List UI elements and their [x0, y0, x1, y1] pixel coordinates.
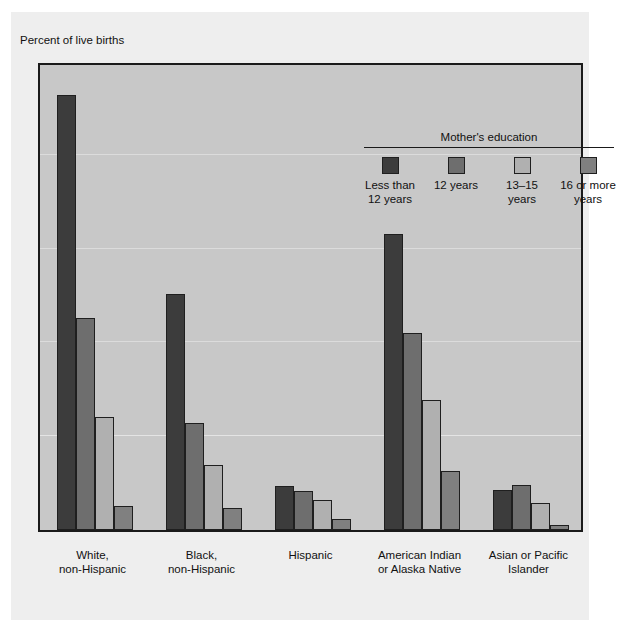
legend-divider: [364, 147, 614, 148]
bar: [294, 491, 313, 530]
x-axis-group-label: Hispanic: [251, 548, 371, 562]
bar: [223, 508, 242, 531]
y-axis-caption: Percent of live births: [20, 34, 124, 46]
bar: [204, 465, 223, 530]
legend-item: 16 or more years: [558, 157, 618, 207]
bar: [185, 423, 204, 530]
x-axis-group-label: Asian or Pacific Islander: [469, 548, 589, 577]
legend-swatch-icon: [580, 157, 597, 174]
bar: [493, 490, 512, 530]
bar: [403, 333, 422, 530]
legend-item: Less than 12 years: [360, 157, 420, 207]
legend-swatch-icon: [514, 157, 531, 174]
legend-item-label: 13–15 years: [492, 179, 552, 207]
bar: [114, 506, 133, 530]
x-axis-group-label: Black, non-Hispanic: [142, 548, 262, 577]
bar: [384, 234, 403, 530]
gridline-10: [40, 435, 581, 436]
bar: [441, 471, 460, 530]
bar: [76, 318, 95, 530]
legend-item-label: 12 years: [426, 179, 486, 193]
legend-title: Mother's education: [360, 131, 618, 143]
bar: [166, 294, 185, 530]
x-axis-group-label: American Indian or Alaska Native: [360, 548, 480, 577]
bar: [57, 95, 76, 530]
plot-frame: Mother's education Less than 12 years12 …: [38, 63, 583, 532]
legend-swatch-icon: [382, 157, 399, 174]
legend-item-label: 16 or more years: [558, 179, 618, 207]
legend: Mother's education Less than 12 years12 …: [360, 131, 618, 207]
legend-item: 13–15 years: [492, 157, 552, 207]
legend-swatch-icon: [448, 157, 465, 174]
bar: [95, 417, 114, 530]
bar: [332, 519, 351, 530]
legend-item: 12 years: [426, 157, 486, 193]
legend-item-label: Less than 12 years: [360, 179, 420, 207]
bar: [313, 500, 332, 530]
bar: [275, 486, 294, 530]
legend-items: Less than 12 years12 years13–15 years16 …: [360, 157, 618, 207]
gridline-20: [40, 341, 581, 342]
bar: [422, 400, 441, 530]
bar: [531, 503, 550, 530]
gridline-30: [40, 248, 581, 249]
bar: [512, 485, 531, 530]
bar: [550, 525, 569, 530]
x-axis-group-label: White, non-Hispanic: [33, 548, 153, 577]
